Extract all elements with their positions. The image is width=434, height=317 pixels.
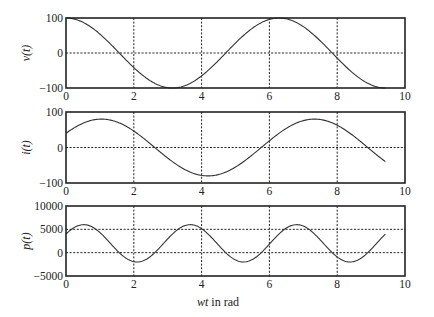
x-tick-label: 6: [267, 90, 273, 102]
y-tick-label: 0: [57, 142, 63, 154]
y-tick-label: −5000: [34, 270, 64, 282]
y-axis-label: i(t): [19, 140, 33, 155]
y-tick-label: 10000: [34, 200, 63, 212]
y-tick-label: 5000: [40, 223, 63, 235]
panel-voltage: −10001000246810v(t): [19, 12, 411, 102]
y-tick-label: 0: [57, 47, 63, 59]
x-tick-label: 0: [63, 278, 69, 290]
y-tick-label: 100: [46, 106, 64, 118]
x-axis-label-variable: wt: [197, 295, 209, 309]
x-tick-label: 2: [131, 90, 137, 102]
chart-canvas: −10001000246810v(t) −10001000246810i(t) …: [0, 0, 434, 317]
x-tick-label: 2: [131, 278, 137, 290]
y-tick-label: 0: [57, 247, 63, 259]
y-tick-label: 100: [46, 12, 64, 24]
x-tick-label: 6: [267, 185, 273, 197]
x-tick-label: 0: [63, 90, 69, 102]
x-tick-label: 8: [334, 278, 340, 290]
x-tick-label: 8: [334, 185, 340, 197]
x-tick-label: 4: [199, 278, 205, 290]
x-tick-label: 8: [334, 90, 340, 102]
y-axis-label: v(t): [19, 45, 33, 62]
x-tick-label: 4: [199, 90, 205, 102]
panel-power: −500005000100000246810p(t): [19, 200, 411, 290]
x-axis-label: wt in rad: [197, 295, 239, 309]
x-tick-label: 0: [63, 185, 69, 197]
panel-current: −10001000246810i(t): [19, 106, 411, 197]
x-tick-label: 10: [399, 278, 411, 290]
x-tick-label: 6: [267, 278, 273, 290]
y-tick-label: −100: [39, 177, 63, 189]
x-axis-label-unit: in rad: [208, 295, 239, 309]
figure: −10001000246810v(t) −10001000246810i(t) …: [0, 0, 434, 317]
x-tick-label: 10: [399, 185, 411, 197]
plot-frame: [66, 206, 405, 276]
x-tick-label: 10: [399, 90, 411, 102]
x-tick-label: 2: [131, 185, 137, 197]
y-axis-label: p(t): [19, 232, 33, 250]
y-tick-label: −100: [39, 82, 63, 94]
x-tick-label: 4: [199, 185, 205, 197]
